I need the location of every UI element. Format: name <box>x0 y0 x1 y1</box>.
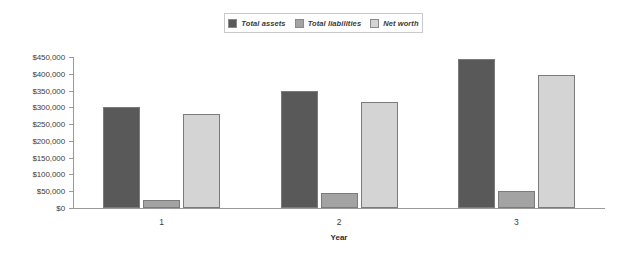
legend-label-total-liabilities: Total liabilities <box>308 19 362 28</box>
x-tick-label: 2 <box>337 217 342 227</box>
y-tick-label: $400,000 <box>3 69 65 78</box>
y-tick-label: $100,000 <box>3 170 65 179</box>
y-tick-label: $300,000 <box>3 103 65 112</box>
legend-swatch-net-worth <box>370 19 379 28</box>
y-tick-label: $150,000 <box>3 153 65 162</box>
y-tick-label: $450,000 <box>3 53 65 62</box>
legend-label-total-assets: Total assets <box>241 19 285 28</box>
y-tick-label: $200,000 <box>3 136 65 145</box>
y-axis-line <box>73 57 74 208</box>
y-tick-mark <box>69 174 73 175</box>
y-tick-mark <box>69 141 73 142</box>
bar-total-assets-year-2 <box>281 91 318 208</box>
y-tick-mark <box>69 74 73 75</box>
x-axis-line <box>73 208 605 209</box>
bar-total-assets-year-3 <box>458 59 495 208</box>
bar-total-liabilities-year-1 <box>143 200 180 208</box>
bar-chart: Total assets Total liabilities Net worth… <box>0 0 620 254</box>
legend-swatch-total-assets <box>228 19 237 28</box>
y-tick-label: $350,000 <box>3 86 65 95</box>
bar-net-worth-year-2 <box>361 102 398 208</box>
legend-label-net-worth: Net worth <box>383 19 418 28</box>
bar-total-liabilities-year-2 <box>321 193 358 208</box>
bar-net-worth-year-1 <box>183 114 220 208</box>
legend-item-net-worth: Net worth <box>370 19 418 28</box>
y-tick-mark <box>69 191 73 192</box>
x-axis-title: Year <box>331 233 348 242</box>
y-tick-label: $250,000 <box>3 120 65 129</box>
y-tick-mark <box>69 124 73 125</box>
y-tick-mark <box>69 57 73 58</box>
bar-net-worth-year-3 <box>538 75 575 208</box>
y-tick-label: $0 <box>3 204 65 213</box>
y-tick-label: $50,000 <box>3 187 65 196</box>
y-tick-mark <box>69 208 73 209</box>
y-tick-mark <box>69 158 73 159</box>
bar-total-liabilities-year-3 <box>498 191 535 208</box>
y-tick-mark <box>69 107 73 108</box>
legend-item-total-assets: Total assets <box>228 19 285 28</box>
legend-item-total-liabilities: Total liabilities <box>295 19 362 28</box>
plot-area: $0$50,000$100,000$150,000$200,000$250,00… <box>73 57 605 208</box>
bar-total-assets-year-1 <box>103 107 140 208</box>
legend-swatch-total-liabilities <box>295 19 304 28</box>
x-tick-label: 1 <box>159 217 164 227</box>
chart-legend: Total assets Total liabilities Net worth <box>224 13 423 33</box>
x-tick-label: 3 <box>514 217 519 227</box>
y-tick-mark <box>69 91 73 92</box>
